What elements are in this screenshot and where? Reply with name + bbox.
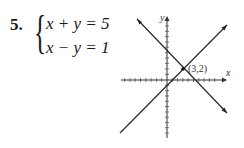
line-x-plus-y-eq-5 — [137, 19, 227, 113]
graph: (3,2) x y — [0, 0, 244, 148]
x-axis-arrow-icon — [222, 78, 227, 83]
axes — [121, 16, 227, 138]
y-axis-arrow-icon — [165, 16, 170, 21]
line-x-minus-y-eq-1 — [120, 25, 227, 133]
x-axis-label: x — [225, 67, 231, 78]
intersection-point — [181, 67, 185, 71]
y-axis-label: y — [159, 12, 165, 23]
intersection-label: (3,2) — [188, 63, 207, 75]
